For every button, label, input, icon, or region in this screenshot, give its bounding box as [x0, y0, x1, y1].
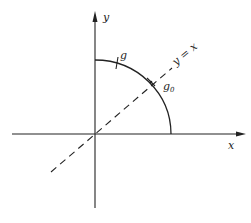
diagram-canvas: y x g g0 y = x	[0, 0, 251, 223]
point-g0-label-subscript: 0	[170, 86, 175, 94]
point-g0-label: g0	[163, 80, 175, 94]
point-g0-dot	[150, 81, 153, 84]
y-axis-arrow-icon	[93, 11, 98, 22]
x-axis-label: x	[228, 139, 235, 152]
x-axis-arrow-icon	[236, 132, 246, 137]
line-y-equals-x	[51, 68, 172, 172]
point-g-label: g	[120, 49, 127, 62]
line-y-equals-x-label: y = x	[169, 39, 201, 69]
point-g0-label-main: g	[163, 80, 170, 93]
quarter-circle-arc	[95, 60, 171, 134]
y-axis-label: y	[102, 11, 110, 24]
